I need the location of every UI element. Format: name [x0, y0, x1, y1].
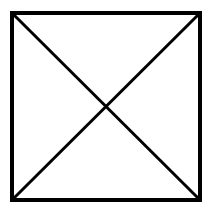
crossed-square-diagram	[0, 0, 211, 212]
